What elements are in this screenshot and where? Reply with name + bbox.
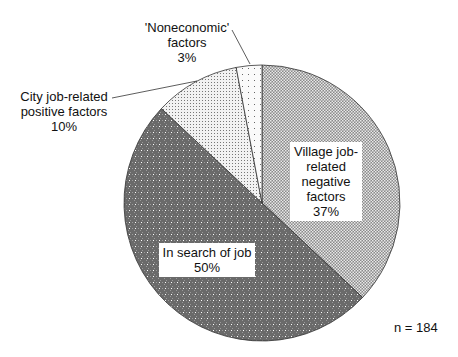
city-label-pct: 10%	[14, 119, 114, 134]
village-label-line2: related	[290, 159, 362, 174]
search-label-line1: In search of job	[159, 245, 255, 260]
search-label: In search of job 50%	[159, 243, 255, 277]
sample-size-note: n = 184	[394, 320, 454, 335]
search-label-pct: 50%	[159, 260, 255, 275]
village-label-line1: Village job-	[290, 144, 362, 159]
city-label-line2: positive factors	[14, 104, 114, 119]
noneco-label: 'Noneconomic' factors 3%	[132, 20, 242, 65]
city-label: City job-related positive factors 10%	[14, 89, 114, 134]
noneco-label-line2: factors	[132, 35, 242, 50]
city-label-line1: City job-related	[14, 89, 114, 104]
noneco-label-line1: 'Noneconomic'	[132, 20, 242, 35]
noneco-label-pct: 3%	[132, 50, 242, 65]
village-label: Village job- related negative factors 37…	[290, 142, 362, 221]
village-label-pct: 37%	[290, 204, 362, 219]
village-label-line4: factors	[290, 189, 362, 204]
village-label-line3: negative	[290, 174, 362, 189]
